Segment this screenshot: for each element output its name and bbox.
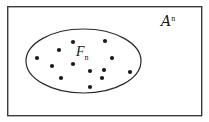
element-dot [59,76,63,80]
element-dot [88,85,92,89]
element-dot [35,56,39,60]
element-dot [102,68,106,72]
universe-set-label: An [161,14,175,28]
subset-label-base: F [76,44,85,59]
element-dot [71,40,75,44]
venn-diagram-figure: An Fn [0,0,209,122]
element-dot [88,69,92,73]
universe-set-superscript: n [171,14,175,23]
universe-set-base: A [161,13,171,29]
element-dot [103,39,107,43]
subset-label: Fn [76,45,89,62]
diagram-canvas [0,0,209,122]
subset-label-subscript: n [85,53,89,62]
element-dot [71,62,75,66]
element-dot [50,64,54,68]
element-dot [110,56,114,60]
element-dot [57,48,61,52]
element-dot [128,70,132,74]
element-dot [100,76,104,80]
